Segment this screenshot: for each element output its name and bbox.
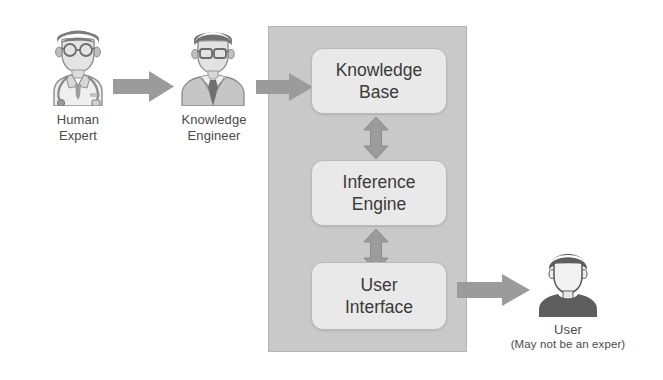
- right-block-arrow-icon-ui-to-user: [457, 273, 531, 307]
- right-block-arrow-icon-engineer-to-kb: [256, 72, 314, 102]
- diagram-canvas: Human Expert: [0, 0, 663, 380]
- knowledge-base-box[interactable]: Knowledge Base: [311, 48, 447, 114]
- human-expert-caption: Human Expert: [26, 112, 130, 144]
- engineer-avatar-icon: [172, 18, 254, 106]
- user-avatar-icon: [533, 243, 603, 317]
- knowledge-engineer-caption: Knowledge Engineer: [162, 112, 266, 144]
- double-vertical-arrow-icon-kb-inference: [362, 117, 390, 159]
- end-user-caption-secondary: (May not be an exper): [488, 337, 648, 351]
- user-interface-box[interactable]: User Interface: [311, 262, 447, 330]
- inference-engine-box[interactable]: Inference Engine: [311, 160, 447, 226]
- right-block-arrow-icon-expert-to-engineer: [113, 70, 175, 103]
- end-user-caption-primary: User: [518, 322, 618, 338]
